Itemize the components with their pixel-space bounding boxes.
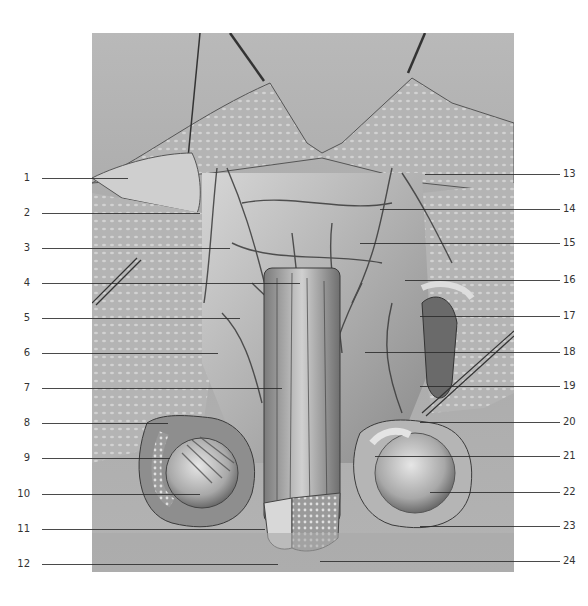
callout-label-23: 23: [560, 520, 576, 532]
leader-line-12: [42, 564, 278, 565]
callout-label-9: 9: [6, 452, 33, 464]
leader-line-17: [420, 316, 560, 317]
callout-label-10: 10: [6, 488, 33, 500]
callout-number: 20: [560, 416, 576, 428]
callout-label-22: 22: [560, 486, 576, 498]
callout-number: 15: [560, 237, 576, 249]
callout-number: 11: [6, 523, 33, 535]
callout-number: 14: [560, 203, 576, 215]
callout-number: 6: [6, 347, 33, 359]
callout-label-15: 15: [560, 237, 576, 249]
callout-number: 4: [6, 277, 33, 289]
leader-line-11: [42, 529, 265, 530]
callout-number: 2: [6, 207, 33, 219]
callout-number: 9: [6, 452, 33, 464]
callout-number: 21: [560, 450, 576, 462]
callout-label-24: 24: [560, 555, 576, 567]
callout-label-1: 1: [6, 172, 33, 184]
leader-line-10: [42, 494, 200, 495]
leader-line-19: [420, 386, 560, 387]
leader-line-1: [42, 178, 128, 179]
callout-number: 18: [560, 346, 576, 358]
callout-number: 7: [6, 382, 33, 394]
callout-label-5: 5: [6, 312, 33, 324]
callout-number: 5: [6, 312, 33, 324]
leader-line-7: [42, 388, 282, 389]
callout-label-20: 20: [560, 416, 576, 428]
leader-line-13: [425, 174, 560, 175]
leader-line-21: [375, 456, 560, 457]
callout-label-3: 3: [6, 242, 33, 254]
callout-number: 12: [6, 558, 33, 570]
callout-number: 24: [560, 555, 576, 567]
callout-label-19: 19: [560, 380, 576, 392]
callout-label-21: 21: [560, 450, 576, 462]
callout-number: 1: [6, 172, 33, 184]
leader-line-24: [320, 561, 560, 562]
callout-label-14: 14: [560, 203, 576, 215]
leader-line-23: [420, 526, 560, 527]
figure-stage: 123456789101112131415161718192021222324: [0, 0, 588, 606]
callout-label-17: 17: [560, 310, 576, 322]
leader-line-2: [42, 213, 200, 214]
leader-line-8: [42, 423, 168, 424]
callout-label-13: 13: [560, 168, 576, 180]
callout-number: 23: [560, 520, 576, 532]
callout-label-2: 2: [6, 207, 33, 219]
callout-label-18: 18: [560, 346, 576, 358]
callout-number: 3: [6, 242, 33, 254]
callout-number: 13: [560, 168, 576, 180]
callout-number: 16: [560, 274, 576, 286]
leader-line-16: [405, 280, 560, 281]
callout-label-4: 4: [6, 277, 33, 289]
leader-line-15: [360, 243, 560, 244]
leader-line-9: [42, 458, 170, 459]
leader-line-22: [430, 492, 560, 493]
callout-number: 8: [6, 417, 33, 429]
leader-line-18: [365, 352, 560, 353]
callout-label-7: 7: [6, 382, 33, 394]
callout-number: 22: [560, 486, 576, 498]
leader-line-6: [42, 353, 218, 354]
callout-label-12: 12: [6, 558, 33, 570]
callout-number: 17: [560, 310, 576, 322]
callout-label-6: 6: [6, 347, 33, 359]
leader-line-4: [42, 283, 300, 284]
callout-label-11: 11: [6, 523, 33, 535]
leader-line-5: [42, 318, 240, 319]
leader-line-20: [420, 422, 560, 423]
callout-label-16: 16: [560, 274, 576, 286]
callout-number: 19: [560, 380, 576, 392]
leader-line-14: [380, 209, 560, 210]
callout-number: 10: [6, 488, 33, 500]
leader-line-3: [42, 248, 230, 249]
callout-label-8: 8: [6, 417, 33, 429]
